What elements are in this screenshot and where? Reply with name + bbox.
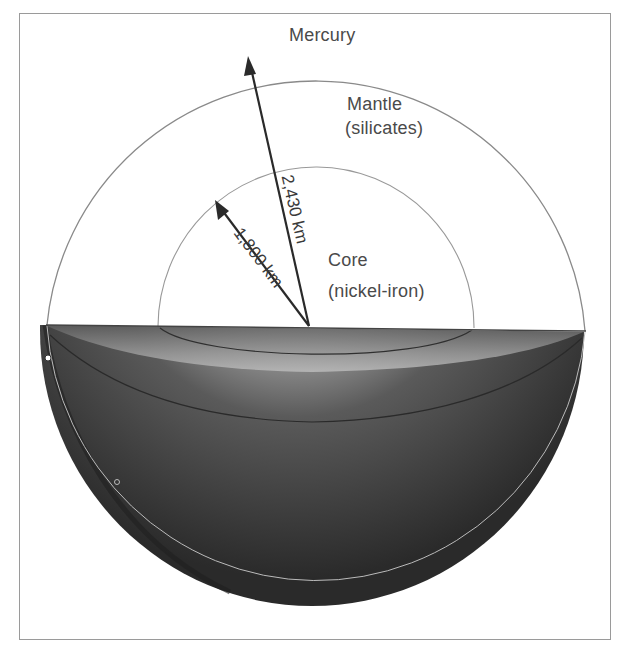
planet-outline xyxy=(47,81,585,331)
mercury-cross-section xyxy=(0,0,630,650)
mantle-composition: (silicates) xyxy=(345,117,423,139)
core-composition: (nickel-iron) xyxy=(328,280,425,302)
mantle-label: Mantle xyxy=(347,93,402,115)
core-label: Core xyxy=(328,249,368,271)
core-outline xyxy=(158,167,474,328)
planet-title: Mercury xyxy=(289,24,355,46)
